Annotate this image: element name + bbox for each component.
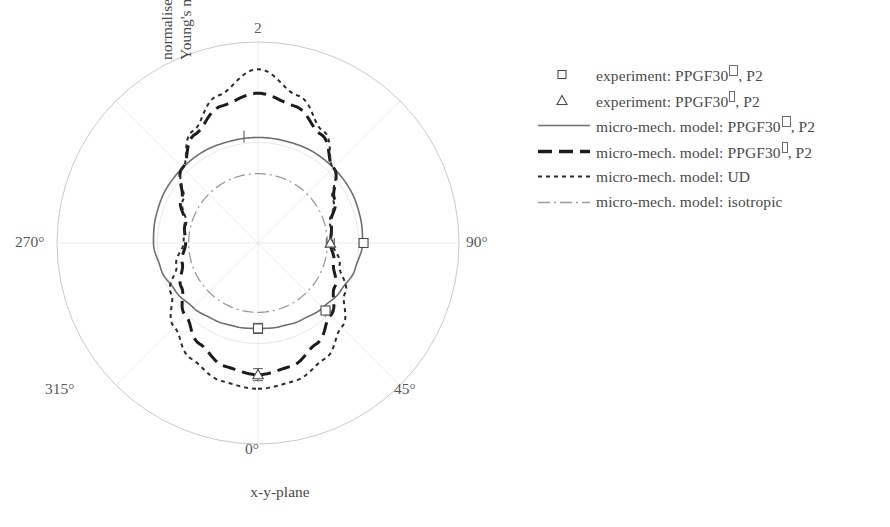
legend-label-prefix: micro-mech. model: isotropic — [596, 193, 783, 210]
legend-superscript-parallel-icon — [782, 142, 788, 153]
legend-item-triangle-marker[interactable]: experiment: PPGF30, P2 — [534, 88, 884, 114]
legend-label-prefix: micro-mech. model: PPGF30 — [596, 144, 781, 161]
legend-label-suffix: , P2 — [738, 67, 763, 84]
legend-label-square-marker: experiment: PPGF30, P2 — [596, 64, 763, 85]
legend-label-suffix: , P2 — [788, 144, 813, 161]
polar-plot-area: 90° 45° 0° 315° 270° 2 normalised Young'… — [0, 0, 520, 527]
y-axis-label-line2: Young's modulus / – — [177, 0, 196, 60]
legend-superscript-perpendicular-icon — [782, 116, 791, 127]
theta-tick-label-315: 315° — [45, 381, 74, 397]
legend-key-solid-line — [534, 113, 596, 138]
legend-label-prefix: experiment: PPGF30 — [596, 67, 728, 84]
legend-label-dotted-line: micro-mech. model: UD — [596, 168, 750, 186]
legend-item-dotted-line[interactable]: micro-mech. model: UD — [534, 164, 884, 190]
legend-label-suffix: , P2 — [791, 118, 816, 135]
theta-tick-label-90: 90° — [466, 234, 488, 250]
polar-plot-svg — [0, 0, 520, 527]
legend-key-square-marker — [534, 62, 596, 87]
legend-key-triangle-marker — [534, 88, 596, 113]
theta-tick-label-270: 270° — [15, 234, 44, 250]
experiment-point-triangle-90 — [325, 238, 335, 248]
legend-label-prefix: micro-mech. model: UD — [596, 168, 750, 185]
r-tick-label-2: 2 — [254, 20, 262, 36]
y-axis-label-line1: normalised — [158, 0, 177, 60]
x-axis-label: x-y-plane — [210, 483, 350, 501]
legend-item-square-marker[interactable]: experiment: PPGF30, P2 — [534, 62, 884, 88]
polar-grid-spoke-315 — [116, 243, 258, 385]
legend-item-dashed-line[interactable]: micro-mech. model: PPGF30, P2 — [534, 139, 884, 165]
polar-grid-spoke-225 — [116, 101, 258, 243]
legend-key-dotted-line — [534, 164, 596, 189]
legend-label-dashdot-line: micro-mech. model: isotropic — [596, 193, 783, 211]
experiment-point-square-90 — [359, 238, 368, 248]
experiment-point-square-45 — [319, 304, 332, 317]
legend-label-dashed-line: micro-mech. model: PPGF30, P2 — [596, 141, 812, 162]
legend-superscript-parallel-icon — [729, 91, 735, 102]
legend-label-solid-line: micro-mech. model: PPGF30, P2 — [596, 115, 815, 136]
y-axis-label: normalised Young's modulus / – — [158, 0, 196, 60]
legend-label-triangle-marker: experiment: PPGF30, P2 — [596, 90, 760, 111]
legend-label-suffix: , P2 — [735, 93, 760, 110]
legend-item-solid-line[interactable]: micro-mech. model: PPGF30, P2 — [534, 113, 884, 139]
legend-label-prefix: experiment: PPGF30 — [596, 93, 728, 110]
legend-key-dashed-line — [534, 139, 596, 164]
legend-key-dashdot-line — [534, 190, 596, 215]
experiment-point-square-0 — [253, 323, 263, 333]
figure-polar-youngs-modulus: 90° 45° 0° 315° 270° 2 normalised Young'… — [0, 0, 890, 527]
theta-tick-label-45: 45° — [394, 381, 416, 397]
legend-label-prefix: micro-mech. model: PPGF30 — [596, 118, 781, 135]
legend-superscript-perpendicular-icon — [729, 65, 738, 76]
polar-grid-spoke-135 — [258, 101, 400, 243]
legend-item-dashdot-line[interactable]: micro-mech. model: isotropic — [534, 190, 884, 216]
theta-tick-label-0: 0° — [245, 441, 259, 457]
legend: experiment: PPGF30, P2experiment: PPGF30… — [534, 62, 884, 215]
